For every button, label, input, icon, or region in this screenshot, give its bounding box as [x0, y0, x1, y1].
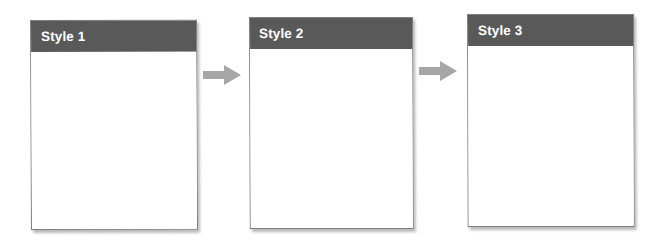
card-header-style-3: Style 3 — [468, 15, 633, 46]
card-style-3[interactable]: Style 3 — [467, 14, 635, 227]
card-title-style-3: Style 3 — [478, 24, 522, 38]
card-title-style-2: Style 2 — [259, 27, 303, 41]
arrow-right-icon — [203, 64, 241, 86]
card-header-style-2: Style 2 — [250, 18, 412, 49]
card-style-1[interactable]: Style 1 — [30, 20, 198, 230]
card-header-style-1: Style 1 — [31, 21, 196, 52]
diagram-canvas: Style 1 Style 2 Style 3 — [0, 0, 659, 247]
card-body-style-1[interactable] — [31, 52, 197, 229]
card-title-style-1: Style 1 — [41, 30, 85, 44]
card-body-style-2[interactable] — [250, 49, 413, 228]
arrow-right-icon — [419, 60, 457, 82]
card-body-style-3[interactable] — [468, 46, 634, 226]
card-style-2[interactable]: Style 2 — [249, 17, 414, 229]
